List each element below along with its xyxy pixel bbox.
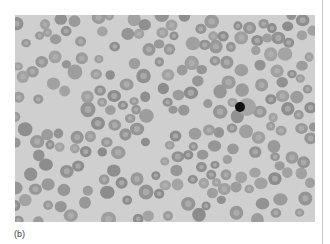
vertical-divider [322,0,323,244]
micrograph-image [15,15,315,222]
blood-smear-micrograph [15,15,315,222]
figure-caption: (b) [14,229,25,239]
